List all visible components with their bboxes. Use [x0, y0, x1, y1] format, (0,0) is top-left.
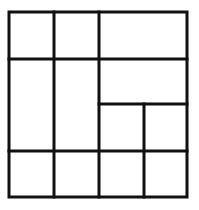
partition-lines [9, 12, 187, 197]
grid-diagram [0, 0, 199, 210]
